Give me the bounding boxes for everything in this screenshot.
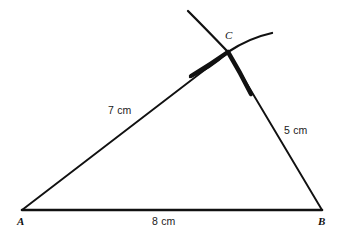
geometry-diagram: A B C 7 cm 5 cm 8 cm bbox=[0, 0, 341, 240]
side-length-label-bc: 5 cm bbox=[284, 125, 308, 136]
triangle-construction-figure bbox=[0, 0, 341, 240]
arc-overlap-on-side-bc bbox=[228, 52, 251, 94]
triangle-side-ac bbox=[22, 52, 228, 210]
arc-overlap-on-side-ac bbox=[191, 52, 228, 76]
vertex-label-b: B bbox=[318, 216, 325, 227]
side-length-label-ab: 8 cm bbox=[152, 216, 176, 227]
side-length-label-ac: 7 cm bbox=[108, 105, 132, 116]
vertex-label-a: A bbox=[17, 216, 24, 227]
vertex-label-c: C bbox=[225, 30, 232, 41]
